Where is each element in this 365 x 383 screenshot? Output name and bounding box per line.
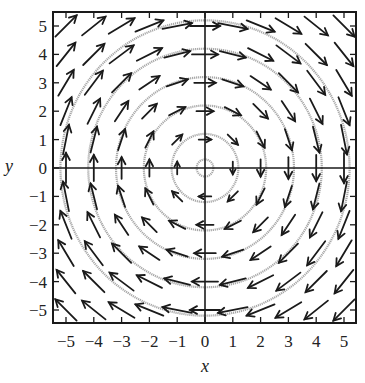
vector-arrow — [253, 104, 268, 119]
y-tick-label: 5 — [39, 17, 48, 36]
vector-arrow — [256, 188, 264, 204]
vector-arrow — [276, 273, 300, 291]
vector-arrow — [313, 127, 321, 153]
vector-arrow — [285, 129, 293, 150]
vector-arrow — [115, 101, 128, 121]
vector-arrow — [164, 49, 190, 57]
vector-arrow — [336, 70, 351, 96]
vector-arrow — [310, 212, 323, 237]
vector-arrow — [276, 18, 302, 33]
vector-arrow — [142, 217, 157, 232]
vector-arrow — [87, 212, 100, 237]
vector-arrow — [59, 211, 71, 239]
vector-arrow — [336, 240, 351, 266]
vector-arrow — [251, 76, 271, 89]
vector-arrow — [137, 275, 162, 288]
vector-arrow — [109, 302, 135, 317]
vector-arrow — [257, 132, 265, 148]
x-tick-label: −5 — [57, 332, 75, 351]
vector-arrow — [139, 76, 159, 89]
vector-arrow — [58, 240, 73, 266]
x-tick-label: −4 — [85, 332, 104, 351]
vector-arrow — [253, 217, 268, 232]
vector-arrow — [276, 302, 302, 317]
vector-arrow — [145, 132, 153, 148]
y-tick-label: −2 — [29, 216, 47, 235]
vector-arrow — [115, 215, 128, 235]
vector-arrow — [117, 186, 125, 207]
vector-arrow — [145, 188, 153, 204]
vector-arrow — [337, 211, 349, 239]
vector-arrow — [304, 17, 327, 36]
vector-arrow — [89, 184, 97, 210]
x-tick-label: −1 — [168, 332, 186, 351]
y-tick-label: −4 — [29, 273, 48, 292]
vector-arrow — [306, 44, 327, 65]
y-tick-label: 4 — [39, 45, 48, 64]
vector-arrow — [82, 17, 105, 36]
axes-lines — [53, 12, 356, 323]
vector-arrow — [218, 23, 247, 31]
y-tick-label: 0 — [39, 159, 48, 178]
vector-arrow — [310, 99, 323, 124]
x-tick-label: 0 — [201, 332, 210, 351]
vector-arrow — [83, 44, 104, 65]
vector-arrow — [137, 48, 162, 61]
vector-arrow — [142, 104, 157, 119]
vector-arrow — [61, 182, 69, 211]
vector-arrow — [63, 125, 71, 154]
vector-arrow — [112, 244, 131, 263]
vector-arrow — [162, 305, 191, 313]
x-tick-label: 4 — [312, 332, 321, 351]
vector-arrow — [85, 241, 103, 265]
x-tick-label: 2 — [256, 332, 265, 351]
vector-arrow — [57, 270, 76, 293]
vector-arrow — [282, 101, 295, 121]
x-tick-labels: −5−4−3−2−1012345 — [57, 332, 348, 351]
vector-arrow — [139, 246, 159, 259]
vector-arrow — [282, 215, 295, 235]
vector-arrow — [162, 21, 191, 29]
vector-arrow — [279, 73, 298, 92]
vector-arrow — [225, 221, 241, 229]
x-tick-label: −2 — [140, 332, 158, 351]
vector-arrow — [112, 73, 131, 92]
x-tick-label: 1 — [229, 332, 238, 351]
y-tick-label: 3 — [39, 74, 48, 93]
vector-arrow — [304, 301, 327, 320]
vector-arrow — [167, 78, 188, 86]
vector-arrow — [339, 182, 347, 211]
vector-field-plot: −5−4−3−2−1012345 −5−4−3−2−1012345 x y — [0, 0, 365, 383]
x-tick-label: 5 — [340, 332, 349, 351]
vector-arrow — [251, 246, 271, 259]
vector-arrow — [83, 271, 104, 292]
vector-arrow — [279, 244, 298, 263]
vector-arrow — [247, 304, 275, 316]
x-tick-label: 3 — [284, 332, 293, 351]
vector-arrow — [109, 18, 135, 33]
vector-arrow — [169, 220, 185, 228]
vector-arrow — [306, 271, 327, 292]
vector-arrow — [57, 43, 76, 66]
vector-arrow — [220, 278, 246, 286]
y-axis-label: y — [3, 156, 13, 176]
x-tick-label: −3 — [113, 332, 131, 351]
y-tick-label: −3 — [29, 244, 47, 263]
y-tick-labels: −5−4−3−2−1012345 — [29, 17, 48, 320]
y-tick-label: −1 — [29, 187, 47, 206]
vector-arrow — [222, 250, 243, 258]
y-tick-label: 2 — [39, 102, 48, 121]
vector-arrow — [135, 19, 163, 31]
vector-arrow — [58, 70, 73, 96]
y-tick-label: −5 — [29, 301, 47, 320]
x-axis-label: x — [200, 356, 209, 376]
vector-arrow — [169, 107, 185, 115]
y-tick-label: 1 — [39, 131, 48, 150]
vector-arrow — [338, 97, 350, 125]
vector-arrow — [225, 107, 241, 115]
vector-arrow — [82, 301, 105, 320]
